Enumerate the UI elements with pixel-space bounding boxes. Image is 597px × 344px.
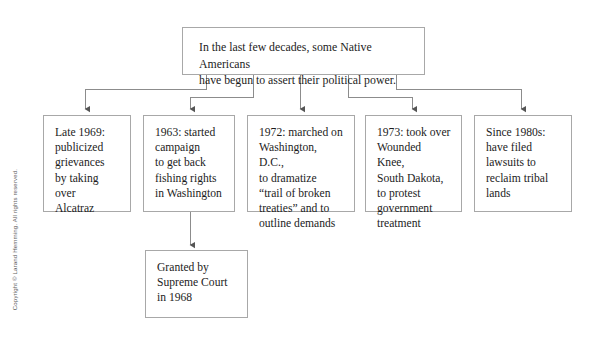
branch-box-5: Since 1980s: have filed lawsuits to recl… <box>474 115 572 212</box>
branch-box-3: 1972: marched on Washington, D.C., to dr… <box>247 115 355 212</box>
sub-box-1: Granted by Supreme Court in 1968 <box>145 250 248 318</box>
branch-box-4: 1973: took over Wounded Knee, South Dako… <box>365 115 462 212</box>
branch-box-2: 1963: started campaign to get back fishi… <box>143 115 235 212</box>
flowchart-canvas: In the last few decades, some Native Ame… <box>0 0 597 344</box>
root-box: In the last few decades, some Native Ame… <box>182 27 425 75</box>
connector-root-to-branch-5 <box>396 75 521 109</box>
copyright-notice: Copyright © Larand Hemming. All rights r… <box>11 165 18 315</box>
branch-box-1: Late 1969: publicized grievances by taki… <box>43 115 131 212</box>
connector-root-to-branch-1 <box>85 75 206 109</box>
